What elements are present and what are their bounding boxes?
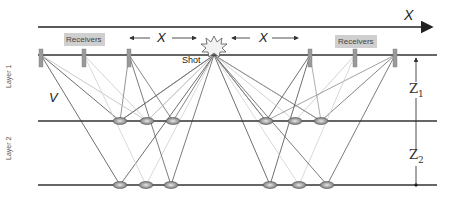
z1-label: Z1	[409, 81, 424, 99]
receiver-icon	[82, 49, 86, 67]
receiver-icon	[353, 49, 357, 67]
seismic-diagram: X X X Receivers Receivers Shot V Layer 1…	[0, 0, 456, 199]
receivers-label-right: Receivers	[338, 37, 374, 46]
z2-label: Z2	[409, 147, 424, 165]
shot-burst-icon	[201, 36, 227, 57]
receiver-icon	[308, 49, 312, 67]
depth-arrows	[415, 58, 418, 186]
offset-label-left: X	[157, 30, 166, 45]
z2-subscript: 2	[418, 155, 424, 165]
layer1-label: Layer 1	[5, 65, 12, 88]
receivers-label-left: Receivers	[66, 35, 102, 44]
receiver-icon	[39, 49, 43, 67]
z1-letter: Z	[409, 81, 418, 96]
shot-label: Shot	[182, 55, 201, 65]
receiver-icon	[127, 49, 131, 67]
x-axis-label: X	[404, 7, 413, 23]
z1-subscript: 1	[418, 89, 424, 99]
diagram-canvas	[0, 0, 456, 199]
rays-layer2	[41, 55, 395, 185]
velocity-label: V	[49, 90, 58, 105]
z2-letter: Z	[409, 147, 418, 162]
offset-label-right: X	[259, 30, 268, 45]
layer2-label: Layer 2	[5, 137, 12, 160]
receiver-icon	[393, 49, 397, 67]
